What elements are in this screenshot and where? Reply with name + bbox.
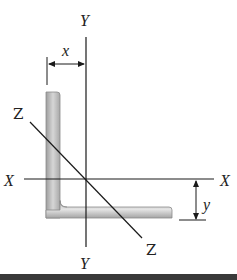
angle-section-diagram: Y Y X X Z Z x y xyxy=(0,0,237,280)
x-axis-label-right: X xyxy=(219,172,231,189)
x-dimension-arrowhead-right xyxy=(78,61,85,67)
y-dimension-arrowhead-top xyxy=(193,180,199,187)
y-dimension-arrowhead-bottom xyxy=(193,213,199,220)
x-dimension: x xyxy=(47,42,85,85)
angle-section xyxy=(46,92,172,218)
y-axis-label-top: Y xyxy=(80,12,91,29)
z-axis-label-top: Z xyxy=(13,105,23,123)
angle-vertical-leg xyxy=(46,92,60,218)
z-axis-label-bottom: Z xyxy=(146,241,156,259)
x-dimension-label: x xyxy=(61,42,69,59)
y-axis-label-bottom: Y xyxy=(80,255,91,272)
bottom-border-bar xyxy=(0,274,237,280)
x-dimension-arrowhead-left xyxy=(48,61,55,67)
y-dimension-label: y xyxy=(201,196,211,214)
x-axis-label-left: X xyxy=(3,172,15,189)
y-dimension: y xyxy=(179,180,211,220)
